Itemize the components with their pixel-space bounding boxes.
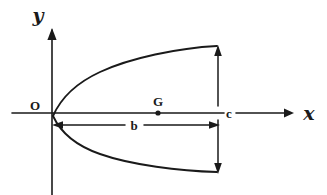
y-axis-arrowhead bbox=[47, 28, 56, 40]
centroid-label: G bbox=[153, 94, 163, 109]
c-dimension-label: c bbox=[226, 106, 232, 121]
centroid-point-dot bbox=[155, 110, 160, 115]
x-axis-label: x bbox=[302, 102, 315, 124]
vertical-dimension-c bbox=[214, 45, 222, 174]
figure-canvas: y x O G c b bbox=[0, 0, 327, 195]
y-axis-label: y bbox=[31, 4, 45, 26]
x-axis-arrowhead bbox=[284, 108, 294, 117]
parabola-diagram: y x O G c b bbox=[0, 0, 327, 195]
b-dimension-label: b bbox=[130, 118, 137, 133]
origin-label: O bbox=[30, 98, 40, 113]
parabola-group bbox=[53, 46, 217, 172]
parabola-upper-branch bbox=[53, 46, 217, 116]
